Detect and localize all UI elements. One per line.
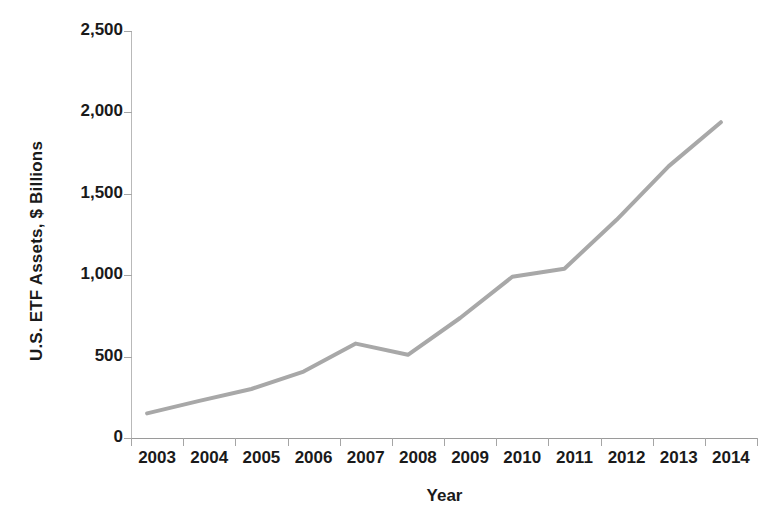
y-tick-label: 2,500 bbox=[61, 20, 123, 40]
x-tick-mark bbox=[496, 438, 497, 446]
x-tick-mark bbox=[601, 438, 602, 446]
x-tick-mark bbox=[235, 438, 236, 446]
y-tick-label: 0 bbox=[61, 427, 123, 447]
y-axis-tick-labels: 05001,0001,5002,0002,500 bbox=[55, 0, 123, 528]
y-tick-label: 2,000 bbox=[61, 101, 123, 121]
y-tick-label: 1,000 bbox=[61, 264, 123, 284]
x-tick-mark bbox=[653, 438, 654, 446]
x-tick-mark bbox=[288, 438, 289, 446]
y-tick-mark bbox=[124, 112, 132, 113]
x-tick-mark bbox=[340, 438, 341, 446]
x-tick-mark bbox=[548, 438, 549, 446]
y-tick-label: 500 bbox=[61, 346, 123, 366]
y-tick-mark bbox=[124, 357, 132, 358]
y-tick-mark bbox=[124, 31, 132, 32]
x-tick-mark bbox=[757, 438, 758, 446]
y-tick-label: 1,500 bbox=[61, 183, 123, 203]
x-axis-title: Year bbox=[131, 486, 758, 506]
x-tick-mark bbox=[392, 438, 393, 446]
x-tick-mark bbox=[131, 438, 132, 446]
x-tick-mark bbox=[183, 438, 184, 446]
y-tick-mark bbox=[124, 194, 132, 195]
y-tick-mark bbox=[124, 275, 132, 276]
x-tick-mark bbox=[705, 438, 706, 446]
plot-area bbox=[131, 31, 757, 438]
x-tick-label: 2014 bbox=[699, 448, 763, 468]
chart-figure: U.S. ETF Assets, $ Billions 05001,0001,5… bbox=[0, 0, 775, 528]
y-axis-title: U.S. ETF Assets, $ Billions bbox=[18, 31, 56, 471]
x-tick-mark bbox=[444, 438, 445, 446]
